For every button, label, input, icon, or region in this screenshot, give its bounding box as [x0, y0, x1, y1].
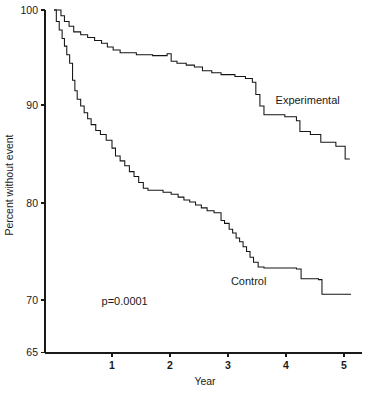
series-curves	[54, 10, 351, 294]
y-tick-label: 65	[26, 346, 38, 358]
axes-group	[45, 10, 362, 353]
x-tick-label: 5	[341, 359, 347, 371]
x-tick-label: 4	[283, 359, 289, 371]
experimental-series-label: Experimental	[276, 94, 340, 106]
y-axis-ticks: 65708090100	[20, 4, 45, 359]
x-tick-label: 3	[225, 359, 231, 371]
control-series-label: Control	[231, 275, 266, 287]
x-tick-label: 2	[167, 359, 173, 371]
x-axis-title: Year	[194, 375, 216, 387]
y-axis-title: Percent without event	[3, 134, 15, 235]
p-value: p=0.0001	[102, 295, 148, 307]
curve-control	[54, 10, 351, 294]
curve-experimental	[54, 10, 350, 159]
y-tick-label: 100	[20, 4, 38, 16]
kaplan-meier-chart: 65708090100 12345 p=0.0001ExperimentalCo…	[0, 0, 368, 394]
x-axis-ticks: 12345	[109, 353, 347, 371]
chart-annotations: p=0.0001ExperimentalControl	[102, 94, 340, 307]
y-tick-label: 70	[26, 294, 38, 306]
y-tick-label: 90	[26, 99, 38, 111]
chart-canvas: 65708090100 12345 p=0.0001ExperimentalCo…	[0, 0, 368, 394]
x-tick-label: 1	[109, 359, 115, 371]
y-tick-label: 80	[26, 197, 38, 209]
